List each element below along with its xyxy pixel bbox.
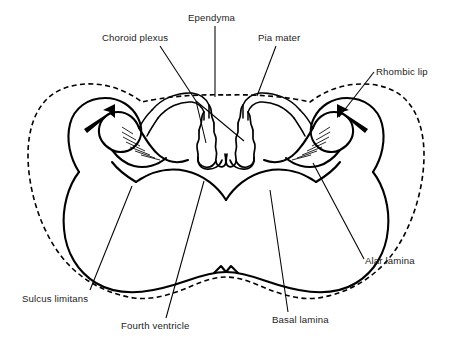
label-fourth-ventricle: Fourth ventricle	[121, 320, 190, 331]
choroid-plexus-villi	[197, 105, 255, 169]
label-sulcus-limitans: Sulcus limitans	[22, 293, 88, 304]
diagram-canvas: Choroid plexus Ependyma Pia mater Rhombi…	[0, 0, 452, 345]
label-alar-lamina: Alar lamina	[365, 255, 415, 266]
label-ependyma: Ependyma	[188, 12, 235, 23]
label-basal-lamina: Basal lamina	[272, 314, 329, 325]
neural-tube-outline	[64, 172, 389, 292]
pia-mater-dashed-outline	[28, 84, 424, 299]
ependymal-roof-plate	[139, 93, 313, 136]
label-choroid-plexus: Choroid plexus	[102, 32, 168, 43]
label-rhombic-lip: Rhombic lip	[376, 66, 428, 77]
label-pia-mater: Pia mater	[258, 32, 300, 43]
rhombic-lip-left	[68, 98, 188, 172]
rhombic-lip-right	[264, 98, 384, 172]
